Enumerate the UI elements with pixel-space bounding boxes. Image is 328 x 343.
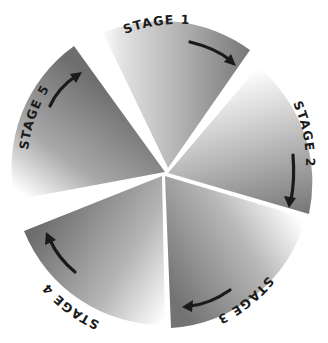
cycle-diagram: STAGE 5 STAGE 1 STAGE 2 STAGE 3 [0, 0, 328, 343]
stage-4-wedge: STAGE 4 [24, 176, 165, 333]
